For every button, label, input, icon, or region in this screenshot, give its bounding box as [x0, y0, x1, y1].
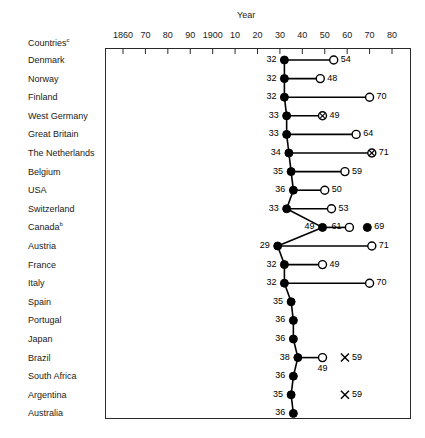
marker-belgium-35: [287, 168, 295, 176]
marker-australia-36: [289, 409, 297, 417]
point-label-switzerland-33: 33: [269, 203, 279, 213]
plot-border: [106, 49, 411, 419]
point-label-brazil-38: 38: [280, 352, 290, 362]
point-label-canada-49: 49: [304, 221, 314, 231]
point-label-italy-70: 70: [377, 277, 387, 287]
point-label-norway-48: 48: [327, 73, 337, 83]
marker-france-32: [280, 261, 288, 269]
marker-canada-69: [363, 223, 371, 231]
marker-the-netherlands-34: [285, 149, 293, 157]
marker-canada-49: [319, 223, 327, 231]
marker-austria-29: [274, 242, 282, 250]
point-label-austria-29: 29: [260, 240, 270, 250]
marker-italy-32: [280, 279, 288, 287]
marker-switzerland-53: [327, 205, 335, 213]
point-label-argentina-35: 35: [273, 389, 283, 399]
point-label-brazil-49: 49: [317, 363, 327, 373]
marker-austria-71: [368, 242, 376, 250]
point-label-brazil-59: 59: [352, 352, 362, 362]
marker-denmark-54: [330, 56, 338, 64]
point-label-norway-32: 32: [266, 73, 276, 83]
point-label-great-britain-64: 64: [363, 128, 373, 138]
marker-west-germany-33: [283, 112, 291, 120]
marker-belgium-59: [341, 168, 349, 176]
point-label-canada-61: 61: [331, 221, 341, 231]
marker-spain-35: [287, 298, 295, 306]
marker-usa-50: [321, 186, 329, 194]
marker-finland-70: [366, 93, 374, 101]
point-label-australia-36: 36: [275, 407, 285, 417]
chart-container: Year 186070809019001020304050607080 Coun…: [0, 0, 425, 438]
point-label-the-netherlands-71: 71: [379, 147, 389, 157]
point-label-denmark-54: 54: [341, 54, 351, 64]
point-label-switzerland-53: 53: [338, 203, 348, 213]
marker-great-britain-64: [352, 130, 360, 138]
point-label-usa-36: 36: [275, 184, 285, 194]
point-label-west-germany-49: 49: [330, 110, 340, 120]
marker-finland-32: [280, 93, 288, 101]
marker-norway-32: [280, 75, 288, 83]
marker-usa-36: [289, 186, 297, 194]
marker-switzerland-33: [283, 205, 291, 213]
point-label-argentina-59: 59: [352, 389, 362, 399]
point-label-south-africa-36: 36: [275, 370, 285, 380]
column-connector: [278, 227, 323, 246]
point-label-great-britain-33: 33: [269, 128, 279, 138]
point-label-denmark-32: 32: [266, 54, 276, 64]
marker-italy-70: [366, 279, 374, 287]
point-label-france-32: 32: [266, 259, 276, 269]
point-label-belgium-35: 35: [273, 166, 283, 176]
point-label-spain-35: 35: [273, 296, 283, 306]
marker-south-africa-36: [289, 372, 297, 380]
point-label-canada-69: 69: [374, 221, 384, 231]
plot-area: [0, 0, 425, 438]
marker-brazil-38: [294, 354, 302, 362]
marker-brazil-49: [319, 354, 327, 362]
marker-great-britain-33: [283, 130, 291, 138]
point-label-portugal-36: 36: [275, 314, 285, 324]
marker-portugal-36: [289, 316, 297, 324]
point-label-west-germany-33: 33: [269, 110, 279, 120]
marker-norway-48: [316, 75, 324, 83]
marker-france-49: [319, 261, 327, 269]
point-label-usa-50: 50: [332, 184, 342, 194]
plot-frame: [106, 49, 411, 419]
marker-japan-36: [289, 335, 297, 343]
point-label-belgium-59: 59: [352, 166, 362, 176]
point-label-the-netherlands-34: 34: [271, 147, 281, 157]
marker-denmark-32: [280, 56, 288, 64]
point-label-italy-32: 32: [266, 277, 276, 287]
marker-canada-61: [345, 223, 353, 231]
marker-argentina-35: [287, 391, 295, 399]
point-label-austria-71: 71: [379, 240, 389, 250]
point-label-finland-32: 32: [266, 91, 276, 101]
point-label-japan-36: 36: [275, 333, 285, 343]
point-label-finland-70: 70: [377, 91, 387, 101]
point-label-france-49: 49: [330, 259, 340, 269]
